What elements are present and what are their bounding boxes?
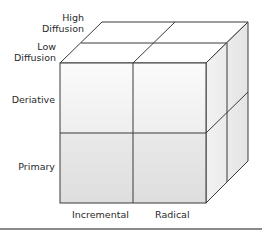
label-low-diffusion-line1: Low bbox=[14, 41, 56, 52]
label-primary: Primary bbox=[18, 161, 55, 172]
cube-diagram: High Diffusion Low Diffusion Deriative P… bbox=[0, 0, 262, 233]
label-high-diffusion-line2: Diffusion bbox=[42, 23, 84, 34]
bottom-rule bbox=[0, 228, 262, 230]
label-high-diffusion: High Diffusion bbox=[42, 12, 84, 34]
label-incremental: Incremental bbox=[72, 209, 129, 220]
label-derivative: Deriative bbox=[12, 94, 55, 105]
label-radical: Radical bbox=[155, 209, 190, 220]
front-face bbox=[60, 63, 206, 203]
label-low-diffusion: Low Diffusion bbox=[14, 41, 56, 63]
label-high-diffusion-line1: High bbox=[42, 12, 84, 23]
label-low-diffusion-line2: Diffusion bbox=[14, 52, 56, 63]
cube-graphic bbox=[0, 0, 262, 233]
